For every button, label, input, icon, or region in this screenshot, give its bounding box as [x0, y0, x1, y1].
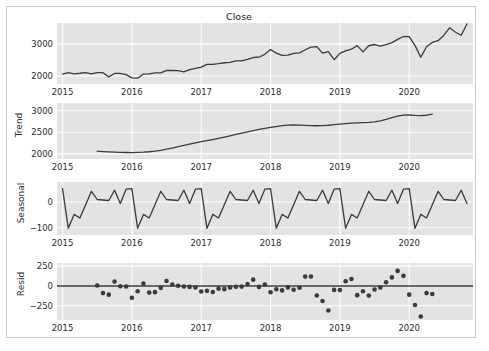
- xtick-label: 2015: [43, 87, 83, 97]
- xtick-label: 2019: [320, 323, 360, 333]
- xtick-label: 2019: [320, 238, 360, 248]
- ytick-label: −250: [15, 301, 53, 311]
- xtick-label: 2015: [43, 162, 83, 172]
- xtick-label: 2018: [251, 238, 291, 248]
- xtick-label: 2015: [43, 238, 83, 248]
- xtick-label: 2019: [320, 162, 360, 172]
- plotarea-resid: [57, 263, 473, 320]
- xtick-label: 2016: [112, 323, 152, 333]
- xtick-label: 2020: [389, 323, 429, 333]
- ytick-label: 3000: [15, 39, 53, 49]
- ytick-label: 0: [15, 197, 53, 207]
- xtick-label: 2017: [181, 87, 221, 97]
- xtick-label: 2018: [251, 87, 291, 97]
- xtick-label: 2015: [43, 323, 83, 333]
- xtick-label: 2016: [112, 238, 152, 248]
- ytick-label: 250: [15, 261, 53, 271]
- ytick-label: −100: [15, 223, 53, 233]
- xtick-label: 2020: [389, 162, 429, 172]
- xtick-label: 2020: [389, 87, 429, 97]
- ytick-label: 2000: [15, 149, 53, 159]
- xtick-label: 2019: [320, 87, 360, 97]
- ytick-label: 2000: [15, 71, 53, 81]
- plotarea-close: [57, 23, 473, 84]
- xtick-label: 2017: [181, 323, 221, 333]
- ytick-label: 0: [15, 281, 53, 291]
- plotarea-seasonal: [57, 182, 473, 235]
- xtick-label: 2018: [251, 162, 291, 172]
- figure-frame: Close 20003000 201520162017201820192020 …: [6, 6, 476, 338]
- plotarea-trend: [57, 103, 473, 159]
- xtick-label: 2016: [112, 162, 152, 172]
- xtick-label: 2016: [112, 87, 152, 97]
- xtick-label: 2020: [389, 238, 429, 248]
- xtick-label: 2018: [251, 323, 291, 333]
- ytick-label: 3000: [15, 106, 53, 116]
- chart-title: Close: [7, 11, 471, 22]
- xtick-label: 2017: [181, 162, 221, 172]
- ytick-label: 2500: [15, 127, 53, 137]
- xtick-label: 2017: [181, 238, 221, 248]
- seasonal-decomposition-figure: Close 20003000 201520162017201820192020 …: [0, 0, 489, 351]
